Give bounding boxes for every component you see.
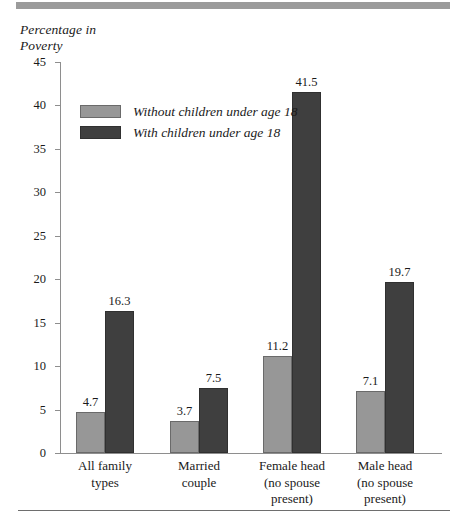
- y-axis-tick-label: 0: [16, 447, 46, 459]
- bar-value-label: 16.3: [99, 295, 140, 308]
- y-axis-tick-label-text: 45: [18, 56, 46, 68]
- bar[interactable]: [199, 388, 228, 453]
- bar-value-label: 7.5: [193, 372, 234, 385]
- bar[interactable]: [263, 356, 292, 453]
- legend-swatch-light-icon: [80, 105, 121, 118]
- y-axis-tick: [55, 279, 61, 280]
- y-axis-tick-label: 5: [16, 404, 46, 416]
- y-axis-tick-label: 15: [16, 317, 46, 329]
- x-axis-category-label: Female head (no spouse present): [242, 458, 342, 508]
- bar-value-label: 41.5: [286, 76, 327, 89]
- bar[interactable]: [356, 391, 385, 453]
- y-axis-tick-label: 25: [16, 230, 46, 242]
- y-axis-tick: [55, 149, 61, 150]
- y-axis-tick: [55, 366, 61, 367]
- y-axis-tick: [55, 410, 61, 411]
- legend-swatch-dark-icon: [80, 126, 121, 139]
- y-axis-tick: [55, 192, 61, 193]
- x-axis-category-label: All family types: [55, 458, 155, 491]
- y-axis-tick-label-text: 20: [18, 273, 46, 285]
- x-axis-line: [60, 453, 442, 454]
- bar[interactable]: [105, 311, 134, 453]
- y-axis-tick-label: 35: [16, 143, 46, 155]
- x-axis-category-label: Married couple: [149, 458, 249, 491]
- y-axis-tick-label-text: 0: [18, 447, 46, 459]
- y-axis-tick: [55, 105, 61, 106]
- y-axis-tick: [55, 236, 61, 237]
- y-axis-tick-label: 20: [16, 273, 46, 285]
- y-axis-tick: [55, 323, 61, 324]
- bar-value-label: 19.7: [379, 266, 420, 279]
- y-axis-line: [60, 62, 61, 454]
- x-axis-category-label: Male head (no spouse present): [335, 458, 435, 508]
- bar[interactable]: [170, 421, 199, 453]
- bar[interactable]: [292, 92, 321, 453]
- y-axis-tick-label-text: 35: [18, 143, 46, 155]
- legend-label-with-children: With children under age 18: [133, 124, 280, 141]
- y-axis-tick-label-text: 15: [18, 317, 46, 329]
- y-axis-tick-label-text: 40: [18, 99, 46, 111]
- legend-label-without-children: Without children under age 18: [133, 103, 297, 120]
- y-axis-tick-label-text: 10: [18, 360, 46, 372]
- y-axis-tick: [55, 62, 61, 63]
- y-axis-tick-label: 45: [16, 56, 46, 68]
- y-axis-tick-label: 10: [16, 360, 46, 372]
- y-axis-tick-label-text: 25: [18, 230, 46, 242]
- bar-chart-plot-area: 454035302520151050 4.716.33.77.511.241.5…: [0, 0, 465, 529]
- bar[interactable]: [385, 282, 414, 453]
- bottom-hairline-rule: [18, 510, 450, 511]
- y-axis-tick-label: 30: [16, 186, 46, 198]
- y-axis-tick-label-text: 30: [18, 186, 46, 198]
- y-axis-tick: [55, 453, 61, 454]
- bar[interactable]: [76, 412, 105, 453]
- y-axis-tick-label: 40: [16, 99, 46, 111]
- y-axis-tick-label-text: 5: [18, 404, 46, 416]
